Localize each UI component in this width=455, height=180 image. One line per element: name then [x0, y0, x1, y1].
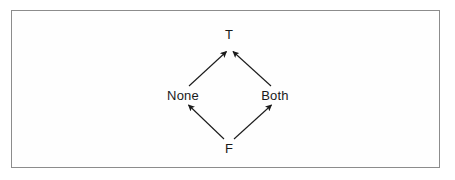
- edge-f-to-none: [189, 105, 225, 139]
- node-label-top: T: [225, 27, 233, 42]
- node-label-both: Both: [261, 88, 289, 103]
- figure-root: T None Both F: [0, 0, 455, 180]
- edge-both-to-t: [233, 52, 271, 87]
- edge-f-to-both: [234, 105, 272, 139]
- node-label-none: None: [167, 88, 199, 103]
- edge-none-to-t: [189, 52, 227, 87]
- edge-group: [189, 52, 272, 140]
- node-label-bottom: F: [225, 141, 233, 156]
